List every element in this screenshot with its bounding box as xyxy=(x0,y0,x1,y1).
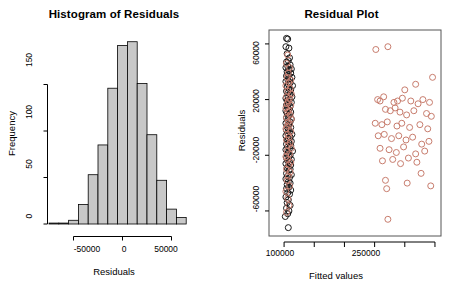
residual-point xyxy=(414,159,420,165)
residual-point xyxy=(404,180,410,186)
residual-point xyxy=(408,98,414,104)
histogram-plot-area xyxy=(0,0,228,295)
residual-point xyxy=(411,108,417,114)
resid-ytick-neg20000: -20000 xyxy=(251,125,261,175)
residual-point xyxy=(377,145,383,151)
residual-point xyxy=(381,131,387,137)
histogram-panel: Histogram of Residuals 150 100 50 0 -500… xyxy=(0,0,228,295)
histogram-bar xyxy=(127,42,137,224)
histogram-bar xyxy=(69,220,79,224)
residual-point xyxy=(410,134,416,140)
residual-point xyxy=(372,120,378,126)
resid-xtick-100000: 100000 xyxy=(253,248,307,258)
residual-point xyxy=(399,120,405,126)
histogram-bar xyxy=(176,217,186,224)
residual-point xyxy=(430,74,436,80)
residual-point xyxy=(399,95,405,101)
residual-point xyxy=(420,97,426,103)
resid-ytick-20000: 20000 xyxy=(251,79,261,123)
residual-point xyxy=(419,141,425,147)
residual-point xyxy=(381,94,387,100)
residual-point xyxy=(389,136,395,142)
residual-point xyxy=(384,119,390,125)
hist-xtick-50000: 50000 xyxy=(142,244,190,254)
residual-title: Residual Plot xyxy=(228,8,455,20)
residual-point xyxy=(405,155,411,161)
histogram-bar xyxy=(167,209,177,224)
residual-point xyxy=(391,99,397,105)
histogram-bars xyxy=(49,42,186,224)
figure-container: Histogram of Residuals 150 100 50 0 -500… xyxy=(0,0,455,295)
resid-ytick-neg60000: -60000 xyxy=(251,174,261,224)
residual-point xyxy=(393,149,399,155)
residual-point xyxy=(407,124,413,130)
histogram-bar xyxy=(98,145,108,224)
histogram-bar xyxy=(137,84,147,224)
residual-point xyxy=(385,216,391,222)
residual-point xyxy=(401,144,407,150)
resid-y-axis-title: Residuals xyxy=(236,96,247,166)
residual-point xyxy=(386,147,392,153)
residual-scatter-points xyxy=(282,35,435,230)
residual-point xyxy=(403,137,409,143)
residual-point xyxy=(375,133,381,139)
hist-xtick-neg50000: -50000 xyxy=(62,244,112,254)
residual-point xyxy=(422,148,428,154)
residual-point xyxy=(428,113,434,119)
hist-xtick-0: 0 xyxy=(117,244,131,254)
resid-x-axis-title: Fitted values xyxy=(276,270,396,281)
residual-point xyxy=(426,138,432,144)
histogram-bar xyxy=(147,135,157,224)
residual-point xyxy=(396,133,402,139)
histogram-bar xyxy=(59,223,69,224)
residual-point xyxy=(384,186,390,192)
residual-point xyxy=(425,126,431,132)
residual-point xyxy=(413,151,419,157)
hist-ytick-100: 100 xyxy=(24,99,34,125)
histogram-bar xyxy=(157,180,167,224)
hist-ytick-150: 150 xyxy=(24,47,34,73)
residual-point xyxy=(413,81,419,87)
histogram-bar xyxy=(49,223,59,224)
resid-ytick-60000: 60000 xyxy=(251,31,261,75)
hist-x-axis-title: Residuals xyxy=(64,266,164,277)
histogram-bar xyxy=(118,45,128,224)
resid-xtick-250000: 250000 xyxy=(339,248,393,258)
residual-point xyxy=(382,177,388,183)
histogram-bar xyxy=(78,204,88,224)
residual-point xyxy=(398,161,404,167)
hist-ytick-0: 0 xyxy=(24,207,34,225)
histogram-bar xyxy=(108,88,118,224)
residual-point xyxy=(417,122,423,128)
residual-point xyxy=(397,109,403,115)
residual-point xyxy=(404,112,410,118)
residual-point xyxy=(427,99,433,105)
residual-point xyxy=(379,158,385,164)
residual-panel: Residual Plot 60000 20000 -20000 -60000 … xyxy=(228,0,455,295)
residual-point xyxy=(373,46,379,52)
residual-point xyxy=(385,44,391,50)
residual-point xyxy=(418,170,424,176)
residual-point xyxy=(390,156,396,162)
residual-point xyxy=(285,225,291,231)
hist-ytick-50: 50 xyxy=(24,151,34,177)
histogram-bar xyxy=(88,175,98,224)
residual-point xyxy=(402,87,408,93)
hist-y-axis-title: Frequency xyxy=(6,99,17,169)
histogram-title: Histogram of Residuals xyxy=(0,8,228,20)
residual-point xyxy=(428,183,434,189)
